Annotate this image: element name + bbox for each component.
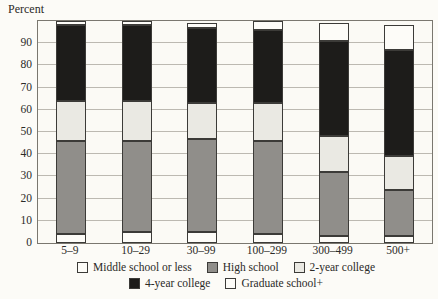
gridline: [38, 131, 432, 132]
bar: [384, 21, 414, 243]
legend-item: 4-year college: [129, 277, 210, 289]
bar-segment: [122, 21, 152, 25]
bar-segment: [319, 136, 349, 172]
bar: [319, 21, 349, 243]
gridline: [38, 87, 432, 88]
legend-label: Graduate school+: [241, 277, 323, 289]
gridline: [38, 153, 432, 154]
bar: [122, 21, 152, 243]
legend-swatch: [207, 262, 218, 273]
bar-segment: [187, 28, 217, 103]
x-tick-label: 500+: [365, 244, 431, 256]
legend-row: Middle school or lessHigh school2-year c…: [77, 259, 375, 275]
x-tick-label: 10–29: [103, 244, 169, 256]
bar-segment: [253, 103, 283, 141]
y-tick-label: 10: [6, 214, 32, 227]
bar-segment: [122, 141, 152, 232]
y-axis-title: Percent: [8, 2, 44, 17]
bar-segment: [187, 232, 217, 243]
bar-segment: [253, 30, 283, 103]
gridline: [38, 109, 432, 110]
legend: Middle school or lessHigh school2-year c…: [0, 259, 438, 291]
bar-segment: [56, 21, 86, 25]
bar-segment: [187, 23, 217, 27]
legend-label: High school: [223, 261, 279, 273]
bar-segment: [384, 50, 414, 157]
y-tick-label: 80: [6, 58, 32, 71]
x-axis-labels: 5–910–2930–99100–299300–499500+: [37, 244, 431, 256]
y-tick-label: 60: [6, 103, 32, 116]
legend-label: 2-year college: [310, 261, 375, 273]
legend-swatch: [129, 278, 140, 289]
gridline: [38, 64, 432, 65]
x-tick-label: 300–499: [300, 244, 366, 256]
legend-swatch: [294, 262, 305, 273]
plot-area: [37, 20, 433, 244]
gridline: [38, 42, 432, 43]
bar: [56, 21, 86, 243]
bar-segment: [319, 172, 349, 236]
bar-segment: [56, 25, 86, 100]
bar-segment: [122, 25, 152, 100]
bar-segment: [253, 234, 283, 243]
bar-segment: [253, 21, 283, 30]
legend-swatch: [225, 278, 236, 289]
legend-item: High school: [207, 261, 279, 273]
stacked-bar-chart-figure: Percent 0102030405060708090 5–910–2930–9…: [0, 0, 438, 299]
bar-segment: [253, 141, 283, 234]
legend-swatch: [77, 262, 88, 273]
bar-segment: [384, 190, 414, 237]
bar-segment: [56, 141, 86, 234]
x-tick-label: 5–9: [37, 244, 103, 256]
legend-label: 4-year college: [145, 277, 210, 289]
y-tick-label: 90: [6, 36, 32, 49]
legend-item: 2-year college: [294, 261, 375, 273]
bar-segment: [56, 101, 86, 141]
y-tick-label: 50: [6, 125, 32, 138]
bar-segment: [187, 139, 217, 232]
bar-segment: [56, 234, 86, 243]
bar-segment: [122, 232, 152, 243]
x-tick-label: 30–99: [168, 244, 234, 256]
y-tick-label: 0: [6, 236, 32, 249]
legend-label: Middle school or less: [93, 261, 192, 273]
gridline: [38, 220, 432, 221]
legend-item: Middle school or less: [77, 261, 192, 273]
gridline: [38, 175, 432, 176]
legend-row: 4-year collegeGraduate school+: [129, 275, 323, 291]
y-tick-label: 30: [6, 169, 32, 182]
bar-segment: [384, 156, 414, 189]
y-tick-label: 20: [6, 192, 32, 205]
bar: [253, 21, 283, 243]
bar: [187, 21, 217, 243]
bar-segment: [384, 25, 414, 49]
bar-segment: [187, 103, 217, 139]
y-tick-label: 70: [6, 81, 32, 94]
bar-segment: [319, 236, 349, 243]
bar-segment: [319, 23, 349, 41]
x-tick-label: 100–299: [234, 244, 300, 256]
legend-item: Graduate school+: [225, 277, 323, 289]
y-tick-label: 40: [6, 147, 32, 160]
bar-segment: [384, 236, 414, 243]
gridline: [38, 198, 432, 199]
bar-segment: [319, 41, 349, 136]
bar-segment: [122, 101, 152, 141]
